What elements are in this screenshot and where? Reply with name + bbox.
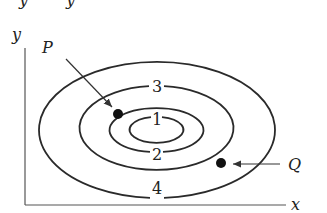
- contour-label-3: 3: [152, 77, 162, 96]
- label-p: P: [41, 38, 53, 57]
- contour-label-1: 1: [152, 110, 162, 129]
- x-axis-label: x: [291, 195, 300, 213]
- contour-diagram: y y y x 4 3 2 1 P Q: [0, 0, 327, 213]
- point-q: [216, 158, 226, 168]
- y-axis-label: y: [11, 25, 22, 44]
- cropped-top-text: y: [65, 0, 76, 9]
- cropped-top-text: y: [18, 0, 29, 9]
- contour-label-4: 4: [152, 179, 162, 198]
- label-q: Q: [288, 155, 301, 174]
- contour-label-2: 2: [152, 145, 162, 164]
- point-p: [113, 109, 123, 119]
